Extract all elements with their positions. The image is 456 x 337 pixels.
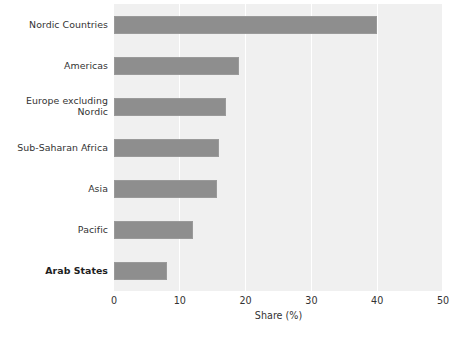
x-tick-label-10: 10	[174, 295, 186, 306]
bar	[114, 16, 377, 34]
bar	[114, 139, 219, 157]
x-tick-label-50: 50	[437, 295, 449, 306]
gridline-20	[245, 4, 246, 291]
category-label: Arab States	[0, 265, 108, 277]
x-tick-label-20: 20	[239, 295, 251, 306]
category-axis: Nordic CountriesAmericasEurope excluding…	[0, 4, 108, 291]
gridline-30	[311, 4, 312, 291]
x-tick-label-0: 0	[111, 295, 117, 306]
category-label: Sub-Saharan Africa	[0, 142, 108, 154]
horizontal-bar-chart: Nordic CountriesAmericasEurope excluding…	[0, 0, 456, 337]
bar	[114, 221, 193, 239]
category-label: Americas	[0, 60, 108, 72]
x-tick-label-40: 40	[371, 295, 383, 306]
gridline-40	[377, 4, 378, 291]
x-axis-title: Share (%)	[114, 310, 443, 321]
bar	[114, 262, 167, 280]
plot-area	[114, 4, 443, 291]
bar	[114, 57, 239, 75]
bar	[114, 180, 217, 198]
category-label: Pacific	[0, 224, 108, 236]
gridline-50	[442, 4, 443, 291]
category-label: Europe excluding Nordic	[0, 95, 108, 118]
category-label: Nordic Countries	[0, 19, 108, 31]
category-label: Asia	[0, 183, 108, 195]
bar	[114, 98, 226, 116]
x-tick-label-30: 30	[305, 295, 317, 306]
